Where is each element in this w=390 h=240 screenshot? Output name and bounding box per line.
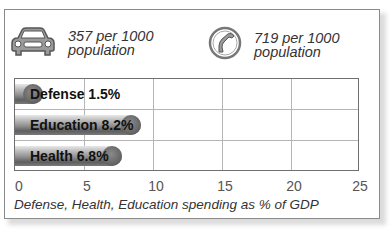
cars-unit: population <box>68 42 135 58</box>
gridline-20 <box>291 79 292 170</box>
gridline-10 <box>153 79 154 170</box>
phones-unit: population <box>254 44 321 60</box>
bar-label-education: Education 8.2% <box>30 115 133 135</box>
bar-chart-plot: Defense 1.5% Education 8.2% Health 6.8% <box>14 78 359 171</box>
bar-label-defense: Defense 1.5% <box>30 84 120 104</box>
stat-cars: 357 per 1000 population <box>10 26 153 60</box>
x-tick-0: 0 <box>15 178 23 194</box>
gridline-15 <box>222 79 223 170</box>
gridline-row-2 <box>15 140 358 141</box>
cars-stat-text: 357 per 1000 population <box>68 29 153 57</box>
bar-label-health: Health 6.8% <box>30 146 109 166</box>
x-tick-25: 25 <box>352 178 368 194</box>
phones-stat-text: 719 per 1000 population <box>254 31 339 59</box>
gridline-row-1 <box>15 109 358 110</box>
x-tick-15: 15 <box>217 178 233 194</box>
x-tick-10: 10 <box>148 178 164 194</box>
x-tick-20: 20 <box>286 178 302 194</box>
telephone-icon <box>208 26 242 64</box>
x-tick-5: 5 <box>83 178 91 194</box>
car-icon <box>10 26 56 60</box>
x-axis-caption: Defense, Health, Education spending as %… <box>14 197 319 212</box>
stat-phones: 719 per 1000 population <box>208 26 339 64</box>
